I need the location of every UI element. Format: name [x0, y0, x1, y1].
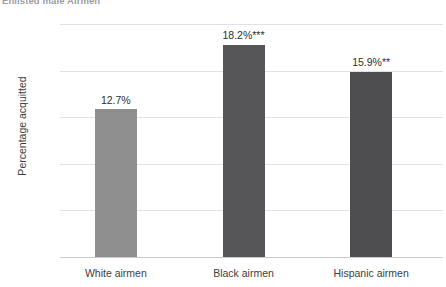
bar-value-label: 15.9%** — [352, 57, 390, 68]
bar-hispanic-airmen[interactable]: 15.9%**Hispanic airmen — [350, 72, 392, 257]
gridline-20 — [60, 24, 443, 25]
bar-value-label: 18.2%*** — [222, 30, 264, 41]
x-category-label: White airmen — [85, 268, 147, 279]
gridline-0 — [60, 257, 443, 258]
bar-value-label: 12.7% — [101, 95, 131, 106]
bar-white-airmen[interactable]: 12.7%White airmen — [95, 109, 137, 257]
x-category-label: Hispanic airmen — [334, 268, 409, 279]
bar-chart: Enlisted male Airmen Percentage acquitte… — [0, 0, 446, 287]
x-category-label: Black airmen — [213, 268, 274, 279]
chart-title: Enlisted male Airmen — [2, 0, 100, 6]
y-axis-title: Percentage acquitted — [16, 26, 28, 226]
plot-area: 04812162012.7%White airmen18.2%***Black … — [60, 24, 443, 257]
bar-black-airmen[interactable]: 18.2%***Black airmen — [223, 45, 265, 257]
